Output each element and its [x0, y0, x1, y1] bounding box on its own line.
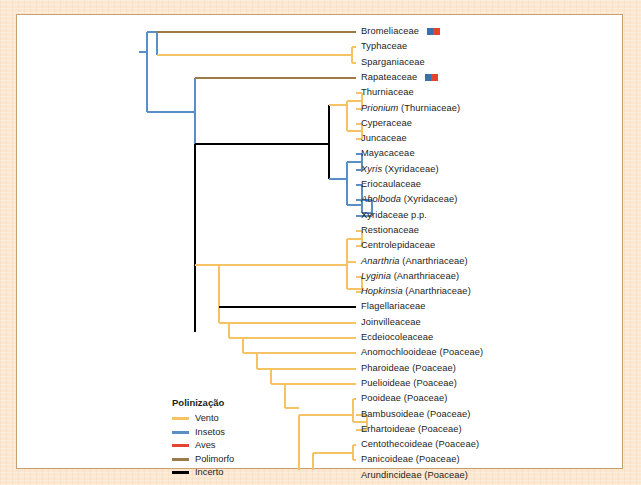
- genus-name: Prionium: [361, 103, 398, 113]
- family-name: (Xyridaceae): [382, 164, 439, 174]
- taxon-name: Eriocaulaceae: [361, 179, 421, 189]
- taxon-name: Sparganiaceae: [361, 57, 425, 67]
- leaf-label: Centothecoideae (Poaceae): [361, 440, 479, 449]
- genus-name: Abolboda: [361, 194, 401, 204]
- leaf-label: Hopkinsia (Anarthriaceae): [361, 287, 471, 296]
- leaf-label: Thurniaceae: [361, 88, 414, 97]
- leaf-label: Eriocaulaceae: [361, 180, 421, 189]
- legend-item-polimorfo: Polimorfo: [172, 453, 292, 467]
- taxon-name: Thurniaceae: [361, 87, 414, 97]
- leaf-label: Sparganiaceae: [361, 58, 425, 67]
- leaf-label: Erhartoideae (Poaceae): [361, 425, 462, 434]
- leaf-label: Juncaceae: [361, 134, 407, 143]
- family-name: (Anarthriaceae): [400, 256, 468, 266]
- legend-item-aves: Aves: [172, 439, 292, 453]
- leaf-label: Flagellariaceae: [361, 302, 425, 311]
- genus-name: Lyginia: [361, 271, 391, 281]
- leaf-label: Restionaceae: [361, 226, 419, 235]
- taxon-name: Centothecoideae (Poaceae): [361, 439, 479, 449]
- legend: Polinização VentoInsetosAvesPolimorfoInc…: [172, 397, 292, 480]
- genus-name: Hopkinsia: [361, 286, 403, 296]
- legend-swatch-polimorfo: [172, 458, 189, 461]
- taxon-name: Panicoideae (Poaceae): [361, 454, 460, 464]
- family-name: (Anarthriaceae): [403, 286, 471, 296]
- leaf-label: Rapateaceae: [361, 73, 417, 82]
- taxon-name: Mayacaceae: [361, 148, 415, 158]
- leaf-label: Joinvilleaceae: [361, 318, 421, 327]
- family-name: (Thurniaceae): [398, 103, 460, 113]
- legend-label: Polimorfo: [195, 455, 234, 464]
- legend-swatch-aves: [172, 444, 189, 447]
- badge-bird-swatch: [433, 28, 440, 35]
- taxon-name: Bromeliaceae: [361, 26, 419, 36]
- taxon-name: Pharoideae (Poaceae): [361, 363, 456, 373]
- leaf-label: Pharoideae (Poaceae): [361, 364, 456, 373]
- taxon-name: Puelioideae (Poaceae): [361, 378, 457, 388]
- leaf-label: Centrolepidaceae: [361, 241, 435, 250]
- pollination-badge-bird-insect: [427, 28, 440, 35]
- leaf-label: Cyperaceae: [361, 119, 412, 128]
- legend-swatch-vento: [172, 417, 189, 420]
- leaf-label: Panicoideae (Poaceae): [361, 455, 460, 464]
- taxon-name: Restionaceae: [361, 225, 419, 235]
- leaf-label: Mayacaceae: [361, 149, 415, 158]
- genus-name: Xyris: [361, 164, 382, 174]
- legend-swatch-insetos: [172, 431, 189, 434]
- phylogenetic-tree: [17, 15, 624, 470]
- leaf-label: Anarthria (Anarthriaceae): [361, 257, 468, 266]
- badge-bird-swatch: [431, 74, 438, 81]
- genus-name: Anarthria: [361, 256, 400, 266]
- leaf-label: Arundincideae (Poaceae): [361, 471, 468, 480]
- legend-label: Aves: [195, 441, 216, 450]
- leaf-label: Typhaceae: [361, 42, 407, 51]
- legend-swatch-incerto: [172, 471, 189, 474]
- pollination-badge-bird-insect: [425, 74, 438, 81]
- taxon-name: Centrolepidaceae: [361, 240, 435, 250]
- leaf-label: Pooideae (Poaceae): [361, 394, 447, 403]
- taxon-name: Arundincideae (Poaceae): [361, 470, 468, 480]
- leaf-label: Lyginia (Anarthriaceae): [361, 272, 459, 281]
- taxon-name: Xyridaceae p.p.: [361, 210, 427, 220]
- taxon-name: Typhaceae: [361, 41, 407, 51]
- legend-item-incerto: Incerto: [172, 466, 292, 480]
- leaf-label: Puelioideae (Poaceae): [361, 379, 457, 388]
- legend-label: Vento: [195, 414, 219, 423]
- family-name: (Xyridaceae): [401, 194, 458, 204]
- leaf-label: Ecdeiocoleaceae: [361, 333, 433, 342]
- taxon-name: Juncaceae: [361, 133, 407, 143]
- taxon-name: Erhartoideae (Poaceae): [361, 424, 462, 434]
- taxon-name: Pooideae (Poaceae): [361, 393, 447, 403]
- leaf-label: Abolboda (Xyridaceae): [361, 195, 458, 204]
- legend-rows: VentoInsetosAvesPolimorfoIncerto: [172, 412, 292, 480]
- leaf-label: Xyridaceae p.p.: [361, 211, 427, 220]
- leaf-label: Bambusoideae (Poaceae): [361, 410, 471, 419]
- leaf-label: Anomochlooideae (Poaceae): [361, 348, 483, 357]
- taxon-name: Rapateaceae: [361, 72, 417, 82]
- legend-item-insetos: Insetos: [172, 426, 292, 440]
- legend-label: Insetos: [195, 428, 225, 437]
- taxon-name: Flagellariaceae: [361, 301, 425, 311]
- leaf-label: Xyris (Xyridaceae): [361, 165, 439, 174]
- taxon-name: Anomochlooideae (Poaceae): [361, 347, 483, 357]
- legend-title: Polinização: [172, 397, 292, 408]
- taxon-name: Ecdeiocoleaceae: [361, 332, 433, 342]
- taxon-name: Bambusoideae (Poaceae): [361, 409, 471, 419]
- taxon-name: Joinvilleaceae: [361, 317, 421, 327]
- legend-item-vento: Vento: [172, 412, 292, 426]
- legend-label: Incerto: [195, 468, 223, 477]
- leaf-label: Bromeliaceae: [361, 27, 419, 36]
- taxon-name: Cyperaceae: [361, 118, 412, 128]
- leaf-label: Prionium (Thurniaceae): [361, 104, 460, 113]
- family-name: (Anarthriaceae): [391, 271, 459, 281]
- figure-panel: BromeliaceaeTyphaceaeSparganiaceaeRapate…: [16, 14, 623, 469]
